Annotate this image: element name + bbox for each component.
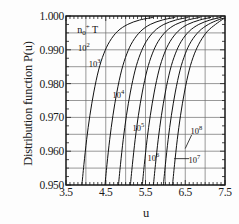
- leader-10^8: [185, 135, 191, 149]
- curve-label-10^3: 103: [89, 57, 101, 69]
- plot-area: [0, 0, 239, 224]
- curve-10^3: [105, 17, 175, 185]
- chart-figure: Distribution function P(u) u 1.0000.9900…: [0, 0, 239, 224]
- curve-label-10^2: 102: [78, 41, 90, 53]
- curve-label-10^8: 108: [191, 124, 203, 136]
- curve-10^6: [153, 17, 221, 185]
- grid-lines: [66, 16, 225, 185]
- curve-label-10^7: 107: [189, 153, 201, 165]
- curve-label-10^5: 105: [132, 121, 144, 133]
- legend-title: n0+ T: [77, 23, 98, 37]
- curve-label-10^4: 104: [113, 88, 125, 100]
- curve-10^2: [82, 17, 154, 185]
- curve-label-10^6: 106: [148, 151, 160, 163]
